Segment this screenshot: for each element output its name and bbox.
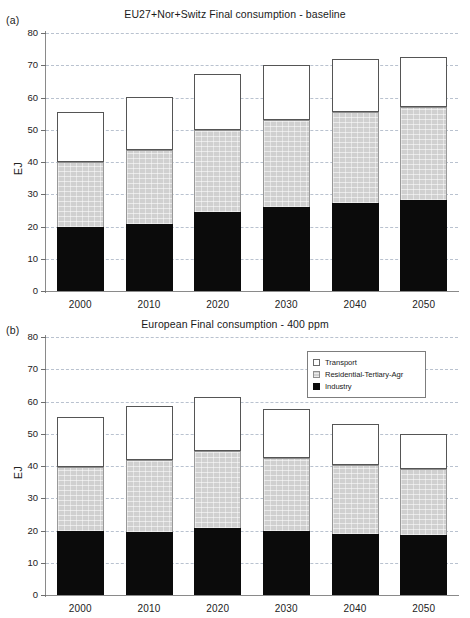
x-tick-label: 2000: [52, 603, 108, 614]
y-tick-mark: [41, 98, 46, 99]
industry-swatch-icon: [313, 383, 320, 390]
bar-segment-transport: [57, 417, 104, 467]
y-tick-mark: [41, 369, 46, 370]
x-tick-label: 2030: [258, 299, 314, 310]
bar-segment-transport: [400, 434, 447, 468]
legend-label-residential: Residential-Tertiary-Agr: [325, 370, 403, 379]
y-tick-label: 50: [16, 124, 38, 135]
bar-segment-industry: [194, 212, 241, 291]
bar-segment-industry: [332, 203, 379, 291]
bar-segment-transport: [263, 65, 310, 120]
bar-segment-residential-tertiary-agr: [400, 107, 447, 200]
y-tick-label: 20: [16, 221, 38, 232]
y-tick-mark: [41, 227, 46, 228]
bar-segment-residential-tertiary-agr: [332, 465, 379, 535]
stacked-bar: [57, 33, 104, 291]
bar-segment-transport: [332, 424, 379, 465]
chart-title-a: EU27+Nor+Switz Final consumption - basel…: [0, 8, 470, 20]
gridline: [46, 466, 458, 467]
bar-segment-industry: [332, 534, 379, 595]
bar-segment-residential-tertiary-agr: [57, 162, 104, 227]
gridline: [46, 65, 458, 66]
stacked-bar: [263, 337, 310, 595]
x-axis-line-a: [45, 291, 459, 292]
y-tick-label: 60: [16, 92, 38, 103]
y-tick-label: 0: [16, 285, 38, 296]
gridline: [46, 337, 458, 338]
stacked-bar: [400, 33, 447, 291]
y-tick-mark: [41, 531, 46, 532]
gridline: [46, 162, 458, 163]
stacked-bar: [194, 33, 241, 291]
x-tick-label: 2050: [396, 299, 452, 310]
transport-swatch-icon: [313, 359, 320, 366]
bar-segment-industry: [126, 224, 173, 291]
bar-segment-residential-tertiary-agr: [57, 467, 104, 531]
x-tick-label: 2020: [190, 299, 246, 310]
bar-segment-transport: [263, 409, 310, 458]
y-tick-mark: [41, 33, 46, 34]
y-tick-label: 20: [16, 525, 38, 536]
y-tick-label: 80: [16, 27, 38, 38]
gridline: [46, 434, 458, 435]
bar-segment-residential-tertiary-agr: [400, 469, 447, 536]
gridline: [46, 563, 458, 564]
y-tick-label: 30: [16, 188, 38, 199]
x-tick-label: 2000: [52, 299, 108, 310]
y-tick-label: 50: [16, 428, 38, 439]
bar-segment-industry: [400, 535, 447, 595]
gridline: [46, 130, 458, 131]
bar-segment-residential-tertiary-agr: [194, 130, 241, 212]
bar-segment-transport: [194, 397, 241, 452]
stacked-bar: [263, 33, 310, 291]
y-tick-label: 10: [16, 557, 38, 568]
bar-segment-residential-tertiary-agr: [126, 150, 173, 224]
gridline: [46, 98, 458, 99]
y-tick-label: 0: [16, 589, 38, 600]
bar-segment-transport: [126, 97, 173, 151]
legend-item-transport: Transport: [313, 357, 419, 368]
x-tick-label: 2050: [396, 603, 452, 614]
x-tick-label: 2010: [121, 603, 177, 614]
y-tick-mark: [41, 162, 46, 163]
y-tick-mark: [41, 65, 46, 66]
x-tick-label: 2040: [327, 299, 383, 310]
y-tick-mark: [41, 402, 46, 403]
legend-item-industry: Industry: [313, 381, 419, 392]
y-tick-mark: [41, 291, 46, 292]
bar-segment-transport: [194, 74, 241, 130]
stacked-bar: [332, 33, 379, 291]
gridline: [46, 194, 458, 195]
gridline: [46, 259, 458, 260]
x-tick-label: 2040: [327, 603, 383, 614]
bar-segment-transport: [332, 59, 379, 112]
bar-segment-transport: [57, 112, 104, 162]
bar-segment-industry: [57, 531, 104, 595]
stacked-bar: [57, 337, 104, 595]
stacked-bar: [194, 337, 241, 595]
gridline: [46, 402, 458, 403]
y-tick-mark: [41, 259, 46, 260]
y-tick-label: 60: [16, 396, 38, 407]
bar-segment-industry: [57, 227, 104, 292]
chart-title-b: European Final consumption - 400 ppm: [0, 318, 470, 330]
y-tick-label: 30: [16, 492, 38, 503]
x-tick-label: 2010: [121, 299, 177, 310]
x-tick-label: 2030: [258, 603, 314, 614]
bar-segment-residential-tertiary-agr: [194, 451, 241, 527]
y-tick-mark: [41, 563, 46, 564]
stacked-bar: [126, 33, 173, 291]
x-axis-line-b: [45, 595, 459, 596]
y-tick-label: 70: [16, 59, 38, 70]
gridline: [46, 498, 458, 499]
y-tick-mark: [41, 194, 46, 195]
y-tick-mark: [41, 434, 46, 435]
y-tick-label: 40: [16, 460, 38, 471]
bar-segment-industry: [194, 528, 241, 595]
y-tick-mark: [41, 595, 46, 596]
y-tick-mark: [41, 130, 46, 131]
bar-segment-industry: [400, 200, 447, 291]
y-tick-label: 80: [16, 331, 38, 342]
bar-segment-industry: [263, 207, 310, 291]
bar-segment-industry: [126, 532, 173, 595]
